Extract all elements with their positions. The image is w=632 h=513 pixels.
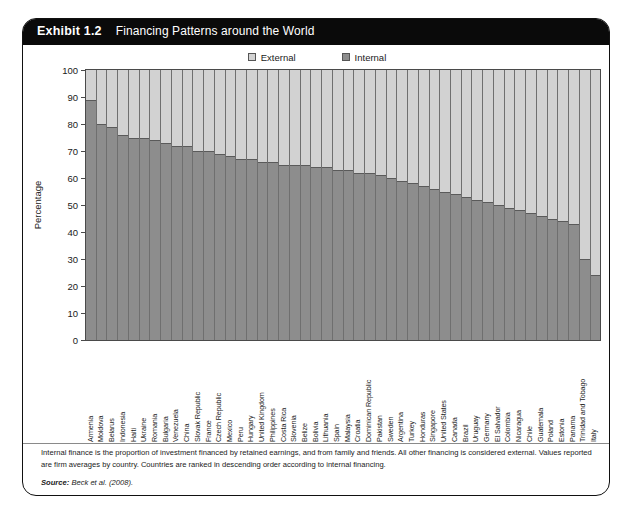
x-axis-label: Poland [546,420,555,442]
bar-segment-external [322,70,332,167]
bar-column [408,70,419,340]
bar-segment-internal [129,138,139,341]
bar-column [430,70,441,340]
x-axis-label: France [204,420,213,442]
bar-segment-internal [322,167,332,340]
bar-segment-internal [537,216,547,340]
bar-segment-internal [483,202,493,340]
bar-segment-internal [311,167,321,340]
x-axis-label: Panama [568,416,577,442]
bar-segment-internal [193,151,203,340]
x-axis-label: Colombia [503,412,512,442]
bar-segment-internal [408,183,418,340]
plot-area [85,69,601,341]
bar-segment-internal [548,219,558,341]
x-axis-label: Czech Republic [214,393,223,442]
bar-column [440,70,451,340]
bar-segment-external [580,70,590,259]
bar-segment-internal [333,170,343,340]
x-axis-label: Trinidad and Tobago [578,379,587,442]
y-tick-label: 10 [67,308,78,319]
source-label: Source: [41,478,69,487]
bar-segment-external [268,70,278,162]
x-axis-label: Philippines [268,408,277,442]
footnote-block: Internal finance is the proportion of in… [41,447,593,487]
bar-segment-internal [140,138,150,341]
x-axis-label: Sweden [386,417,395,442]
x-axis-label: Slovak Republic [193,392,202,442]
bar-column [505,70,516,340]
bar-column [97,70,108,340]
legend-swatch-internal [342,53,350,61]
bar-segment-internal [569,224,579,340]
bar-column [226,70,237,340]
x-axis-label: China [182,424,191,442]
bar-segment-internal [344,170,354,340]
bar-segment-external [548,70,558,219]
bar-column [580,70,591,340]
bar-segment-external [247,70,257,159]
x-axis-label: Dominican Republic [364,380,373,442]
x-axis-label: Bolivia [311,422,320,442]
bar-column [387,70,398,340]
bar-segment-external [419,70,429,186]
y-tick-label: 60 [67,173,78,184]
footnote-text: Internal finance is the proportion of in… [41,447,593,471]
bar-segment-internal [161,143,171,340]
bar-column [344,70,355,340]
bar-segment-external [569,70,579,224]
bar-segment-external [215,70,225,154]
bar-segment-external [301,70,311,165]
x-axis-label: Turkey [407,421,416,442]
x-axis-label: Belize [300,423,309,442]
bar-segment-internal [515,210,525,340]
bar-segment-internal [365,173,375,340]
y-tick-label: 100 [62,65,78,76]
x-axis-label: Bulgaria [161,416,170,442]
bar-column [161,70,172,340]
x-axis-label: Honduras [418,412,427,442]
y-tick-label: 20 [67,281,78,292]
x-axis-label: Argentina [396,412,405,442]
bar-segment-internal [494,205,504,340]
exhibit-number: Exhibit 1.2 [37,24,102,38]
y-tick-label: 80 [67,119,78,130]
bar-column [172,70,183,340]
bar-column [140,70,151,340]
y-tick-label: 40 [67,227,78,238]
bar-segment-external [161,70,171,143]
bar-segment-external [236,70,246,159]
x-axis-label: El Salvador [493,406,502,442]
bar-segment-internal [462,197,472,340]
bar-segment-internal [354,173,364,340]
x-axis-label: Guatemala [536,408,545,442]
bar-series-container [86,70,600,340]
x-axis-label: Italy [589,429,598,442]
bar-segment-external [97,70,107,124]
bar-column [268,70,279,340]
bar-segment-external [365,70,375,173]
bar-segment-external [290,70,300,165]
bar-segment-internal [591,275,601,340]
bar-segment-internal [397,181,407,340]
bar-column [150,70,161,340]
bar-segment-external [354,70,364,173]
x-axis-label: Lithuania [321,414,330,442]
exhibit-title: Financing Patterns around the World [116,24,315,38]
bar-column [462,70,473,340]
legend-swatch-external [248,53,256,61]
x-axis-labels: ArmeniaMoldovaBelarusIndonesiaHaitiUkrai… [86,342,600,442]
bar-segment-external [591,70,601,275]
bar-segment-internal [472,200,482,340]
bar-segment-external [451,70,461,194]
bar-segment-external [226,70,236,156]
bar-column [558,70,569,340]
bar-segment-external [129,70,139,138]
bar-segment-external [526,70,536,213]
bar-segment-external [107,70,117,127]
chart-legend: External Internal [23,49,610,65]
bar-column [107,70,118,340]
bar-column [472,70,483,340]
x-axis-label: Spain [332,424,341,442]
bar-column [215,70,226,340]
